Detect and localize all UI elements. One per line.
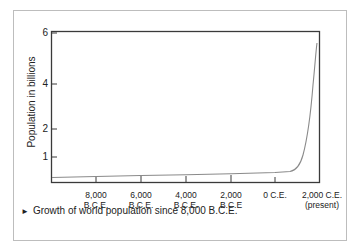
x-tick-era: (present): [292, 200, 352, 210]
x-tick-label-2000ce: 2,000 C.E. (present): [292, 190, 352, 210]
y-tick-label-2: 2: [36, 123, 48, 134]
caption-text: Growth of world population since 8,000 B…: [33, 205, 238, 216]
population-curve: [52, 43, 317, 178]
y-tick-label-1: 1: [36, 151, 48, 162]
y-tick-label-4: 4: [36, 78, 48, 89]
y-tick-label-6: 6: [36, 27, 48, 38]
triangle-marker-icon: ►: [21, 207, 29, 216]
x-tick-year: 2,000 C.E.: [292, 190, 352, 200]
figure-caption: ►Growth of world population since 8,000 …: [21, 205, 237, 216]
y-axis-label: Population in billions: [26, 56, 37, 147]
plot-area: [52, 32, 320, 183]
